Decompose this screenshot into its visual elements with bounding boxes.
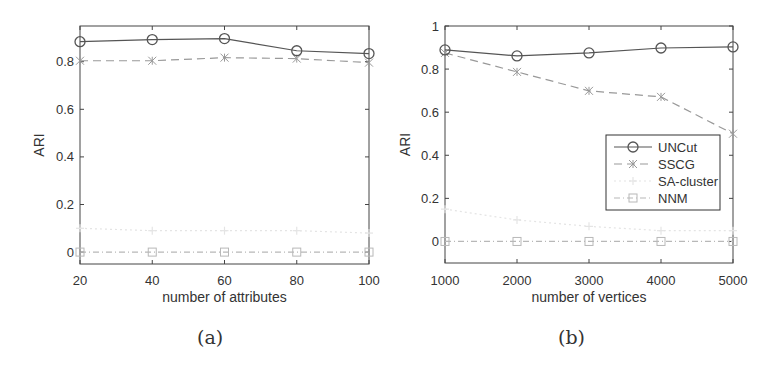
figure: 2040608010000.20.40.60.8number of attrib… [0,0,779,374]
y-tick-label: 0.4 [56,149,74,164]
legend-entry: SSCG [658,157,695,172]
y-tick-label: 0.2 [421,191,439,206]
legend-entry: NNM [658,191,688,206]
chart-panel-a: 2040608010000.20.40.60.8number of attrib… [31,26,380,305]
y-tick-label: 0.6 [56,102,74,117]
x-tick-label: 2000 [503,273,532,288]
x-tick-label: 40 [145,273,159,288]
y-tick-label: 0.8 [56,54,74,69]
y-tick-label: 0 [67,245,74,260]
caption-a: (a) [197,326,223,348]
x-tick-label: 100 [358,273,380,288]
x-axis-label: number of vertices [531,289,646,305]
caption-b: (b) [558,326,585,348]
x-tick-label: 3000 [575,273,604,288]
series-sscg [441,49,737,138]
x-tick-label: 20 [73,273,87,288]
y-axis-label: ARI [31,133,47,156]
x-tick-label: 1000 [431,273,460,288]
x-axis-label: number of attributes [162,289,287,305]
y-tick-label: 0 [432,234,439,249]
series-nnm [76,248,373,256]
x-tick-label: 60 [217,273,231,288]
x-tick-label: 4000 [647,273,676,288]
chart-panel-b: 1000200030004000500000.20.40.60.81number… [397,19,747,306]
series-uncut [440,42,738,61]
y-tick-label: 0.8 [421,62,439,77]
y-tick-label: 1 [432,19,439,34]
y-tick-label: 0.2 [56,197,74,212]
y-axis-label: ARI [397,133,413,156]
legend-entry: SA-cluster [658,174,719,189]
series-sscg [76,54,373,67]
x-tick-label: 80 [290,273,304,288]
y-tick-label: 0.6 [421,105,439,120]
series-nnm [441,237,737,245]
x-tick-label: 5000 [719,273,748,288]
legend-entry: UNCut [658,140,697,155]
series-sa-cluster [76,224,373,237]
legend: UNCutSSCGSA-clusterNNM [606,135,720,210]
y-tick-label: 0.4 [421,148,439,163]
